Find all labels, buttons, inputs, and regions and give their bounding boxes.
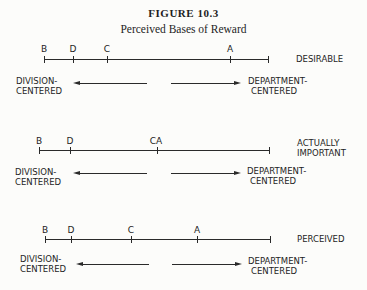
point-label-c: C: [128, 226, 134, 235]
department-centered-label: DEPARTMENT- CENTERED: [248, 256, 307, 276]
tick-b: [45, 236, 46, 243]
panel-perceived: B D C A PERCEIVED DIVISION- CENTERED DEP…: [0, 0, 367, 290]
arrow-right-line: [172, 264, 236, 265]
panel-label: PERCEIVED: [297, 234, 345, 244]
tick-a: [197, 236, 198, 243]
scale-line: [45, 239, 271, 240]
tick-end: [270, 236, 271, 243]
arrow-left-line: [81, 264, 149, 265]
point-label-d: D: [68, 226, 75, 235]
point-label-b: B: [42, 226, 48, 235]
arrow-right-icon: [235, 262, 242, 266]
point-label-a: A: [194, 226, 200, 235]
division-centered-label: DIVISION- CENTERED: [20, 254, 66, 274]
tick-d: [71, 236, 72, 243]
tick-c: [131, 236, 132, 243]
